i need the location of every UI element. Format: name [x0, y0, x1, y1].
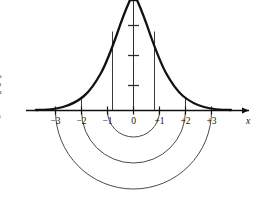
x-axis-tick-labels: −3 −2 −1 0 +1 +2 +3 — [50, 116, 216, 126]
x-tick-label-plus-2: +2 — [180, 116, 190, 126]
x-tick-label-plus-1: +1 — [154, 116, 164, 126]
x-axis-label: x — [245, 116, 251, 126]
normal-distribution-figure: o a n i l s — [0, 0, 267, 207]
x-tick-label-zero: 0 — [131, 116, 136, 126]
x-tick-label-minus-2: −2 — [76, 116, 86, 126]
x-tick-label-minus-3: −3 — [50, 116, 60, 126]
x-tick-label-minus-1: −1 — [102, 116, 112, 126]
x-axis-arrowhead — [242, 108, 249, 114]
x-tick-label-plus-3: +3 — [206, 116, 216, 126]
vertical-axis — [128, 0, 139, 114]
chart-canvas: −3 −2 −1 0 +1 +2 +3 x — [0, 0, 267, 207]
